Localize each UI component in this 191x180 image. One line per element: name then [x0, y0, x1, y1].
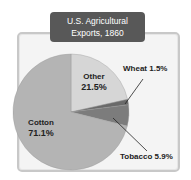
label-tobacco: Tobacco 5.9%: [120, 152, 173, 161]
label-other: Other 21.5%: [74, 72, 114, 92]
label-wheat-pct: 1.5%: [149, 64, 167, 73]
label-wheat-name: Wheat: [123, 64, 147, 73]
chart-title: U.S. Agricultural Exports, 1860: [50, 12, 145, 42]
label-wheat: Wheat 1.5%: [123, 64, 167, 73]
label-tobacco-pct: 5.9%: [155, 152, 173, 161]
label-other-name: Other: [74, 72, 114, 82]
label-cotton-name: Cotton: [20, 118, 62, 128]
label-tobacco-name: Tobacco: [120, 152, 152, 161]
label-other-pct: 21.5%: [74, 82, 114, 92]
wheat-leader-line: [125, 79, 143, 104]
label-cotton-pct: 71.1%: [20, 128, 62, 138]
label-cotton: Cotton 71.1%: [20, 118, 62, 138]
chart-title-line2: Exports, 1860: [50, 27, 145, 39]
chart-title-line1: U.S. Agricultural: [50, 15, 145, 27]
